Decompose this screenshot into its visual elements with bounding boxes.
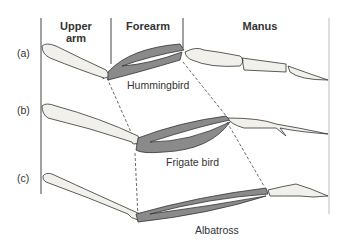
albatross-manus	[268, 184, 328, 197]
header-upper-arm: Upper arm	[50, 20, 102, 44]
hummingbird-forearm	[108, 44, 184, 80]
frigate-humerus	[42, 104, 140, 144]
row-marker-c: (c)	[17, 172, 29, 184]
albatross-wing	[43, 173, 328, 222]
albatross-humerus	[43, 173, 140, 220]
species-label-frigate-bird: Frigate bird	[166, 156, 219, 168]
albatross-forearm	[136, 188, 268, 222]
hummingbird-manus	[185, 48, 328, 80]
species-label-albatross: Albatross	[195, 224, 239, 236]
row-marker-b: (b)	[17, 104, 30, 116]
hummingbird-wing	[42, 44, 328, 80]
frigate-manus	[228, 118, 328, 136]
hummingbird-humerus	[42, 44, 110, 79]
frigate-forearm	[136, 116, 230, 153]
row-marker-a: (a)	[17, 47, 30, 59]
species-label-hummingbird: Hummingbird	[127, 79, 189, 91]
frigate-bird-wing	[42, 104, 328, 153]
header-forearm: Forearm	[120, 20, 176, 32]
header-manus: Manus	[230, 20, 290, 32]
